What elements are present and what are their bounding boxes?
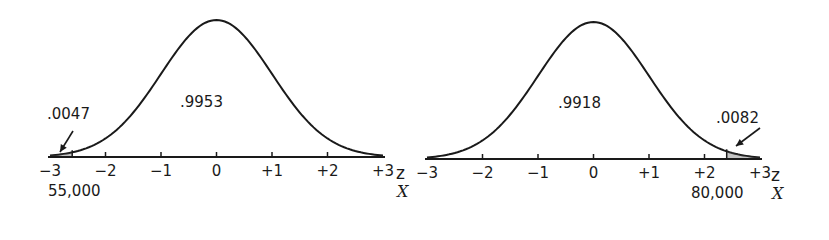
z-tick-label: −3 bbox=[416, 166, 438, 181]
right-z-axis-name: z bbox=[771, 167, 780, 184]
left-x-value-label: 55,000 bbox=[48, 184, 101, 199]
z-tick-label: 0 bbox=[589, 166, 599, 181]
z-tick-label: +3 bbox=[749, 166, 771, 181]
z-tick-label: −3 bbox=[39, 164, 61, 179]
z-tick-label: +1 bbox=[638, 166, 660, 181]
right-tail-area-label: .0082 bbox=[716, 111, 759, 126]
z-tick-label: +1 bbox=[261, 164, 283, 179]
left-normal-curve-panel bbox=[48, 20, 385, 157]
right-x-axis-name: X bbox=[772, 186, 783, 202]
right-x-value-label: 80,000 bbox=[691, 186, 744, 201]
z-tick-label: 0 bbox=[212, 164, 222, 179]
z-tick-label: −2 bbox=[94, 164, 116, 179]
normal-curve bbox=[427, 22, 760, 157]
z-tick-label: +3 bbox=[372, 164, 394, 179]
z-tick-label: +2 bbox=[316, 164, 338, 179]
z-tick-label: −1 bbox=[527, 166, 549, 181]
z-tick-label: +2 bbox=[693, 166, 715, 181]
right-center-area-label: .9918 bbox=[558, 96, 601, 111]
tail-arrow-head-icon bbox=[736, 139, 744, 146]
left-x-axis-name: X bbox=[397, 184, 408, 200]
left-tail-area-label: .0047 bbox=[47, 107, 90, 122]
left-z-axis-name: z bbox=[396, 165, 405, 182]
left-center-area-label: .9953 bbox=[180, 95, 223, 110]
z-tick-label: −1 bbox=[150, 164, 172, 179]
right-normal-curve-panel bbox=[425, 22, 762, 159]
z-tick-label: −2 bbox=[471, 166, 493, 181]
normal-curve bbox=[50, 20, 383, 155]
